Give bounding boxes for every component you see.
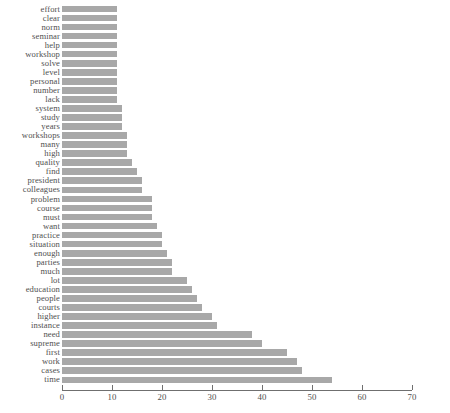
bar-row: supreme <box>0 340 450 349</box>
bar <box>62 322 217 329</box>
bar <box>62 141 127 148</box>
bar <box>62 223 157 230</box>
bar <box>62 268 172 275</box>
bar <box>62 159 132 166</box>
bar <box>62 6 117 13</box>
bar-row: lack <box>0 95 450 104</box>
bar-row: practice <box>0 231 450 240</box>
x-axis-tick-label: 0 <box>60 392 64 402</box>
x-axis-tick-label: 20 <box>158 392 167 402</box>
bar-row: situation <box>0 240 450 249</box>
bar <box>62 69 117 76</box>
bar <box>62 60 117 67</box>
bar <box>62 250 167 257</box>
bar <box>62 177 142 184</box>
x-axis-tick <box>62 385 63 390</box>
bar <box>62 358 297 365</box>
bar-row: effort <box>0 5 450 14</box>
bar <box>62 367 302 374</box>
bar <box>62 241 162 248</box>
x-axis-tick-label: 50 <box>308 392 317 402</box>
x-axis-tick <box>262 385 263 390</box>
bar <box>62 232 162 239</box>
x-axis-tick <box>362 385 363 390</box>
bar-row: personal <box>0 77 450 86</box>
bar <box>62 114 122 121</box>
bar-row: education <box>0 285 450 294</box>
bar-row: need <box>0 331 450 340</box>
bar-row: years <box>0 123 450 132</box>
bar <box>62 168 137 175</box>
x-axis-tick-label: 30 <box>208 392 217 402</box>
x-axis-line <box>62 390 412 391</box>
bar <box>62 377 332 384</box>
bar-row: help <box>0 41 450 50</box>
x-axis-tick-label: 40 <box>258 392 267 402</box>
bar-row: solve <box>0 59 450 68</box>
bar-row: want <box>0 222 450 231</box>
bar-category-label: time <box>44 376 60 385</box>
bar <box>62 33 117 40</box>
bar <box>62 313 212 320</box>
x-axis-tick <box>162 385 163 390</box>
bar-row: must <box>0 213 450 222</box>
bar <box>62 42 117 49</box>
bar-row: course <box>0 204 450 213</box>
bar-row: study <box>0 114 450 123</box>
bar <box>62 304 202 311</box>
x-axis-tick <box>112 385 113 390</box>
bar-row: colleagues <box>0 186 450 195</box>
bar-row: number <box>0 86 450 95</box>
bar-row: clear <box>0 14 450 23</box>
bar-chart: effortclearnormseminarhelpworkshopsolvel… <box>0 0 450 413</box>
bar-row: president <box>0 177 450 186</box>
bar-row: quality <box>0 159 450 168</box>
bar <box>62 51 117 58</box>
bar <box>62 123 122 130</box>
bar-row: norm <box>0 23 450 32</box>
bar-row: instance <box>0 322 450 331</box>
bar <box>62 295 197 302</box>
bar <box>62 150 127 157</box>
x-axis-tick-label: 70 <box>408 392 417 402</box>
bar-row: parties <box>0 258 450 267</box>
bar-row: much <box>0 267 450 276</box>
bar-row: problem <box>0 195 450 204</box>
bar-row: people <box>0 295 450 304</box>
bar-row: courts <box>0 304 450 313</box>
bar <box>62 87 117 94</box>
bar <box>62 187 142 194</box>
bar <box>62 277 187 284</box>
bar-row: workshops <box>0 132 450 141</box>
bar-row: system <box>0 105 450 114</box>
bar <box>62 259 172 266</box>
bar <box>62 96 117 103</box>
bar <box>62 132 127 139</box>
bar-row: time <box>0 376 450 385</box>
bar <box>62 331 252 338</box>
bar-row: lot <box>0 276 450 285</box>
x-axis-tick-label: 60 <box>358 392 367 402</box>
bar <box>62 214 152 221</box>
bar-row: level <box>0 68 450 77</box>
x-axis-tick <box>412 385 413 390</box>
bar <box>62 286 192 293</box>
bar-row: enough <box>0 249 450 258</box>
bar-row: high <box>0 150 450 159</box>
bar-row: find <box>0 168 450 177</box>
bar-row: first <box>0 349 450 358</box>
x-axis-tick-label: 10 <box>108 392 117 402</box>
bar-row: higher <box>0 313 450 322</box>
bar <box>62 78 117 85</box>
bar <box>62 205 152 212</box>
bar-row: work <box>0 358 450 367</box>
x-axis-tick <box>312 385 313 390</box>
bar-row: workshop <box>0 50 450 59</box>
bar <box>62 24 117 31</box>
bars-container: effortclearnormseminarhelpworkshopsolvel… <box>0 0 450 385</box>
bar <box>62 340 262 347</box>
bar <box>62 15 117 22</box>
bar-row: seminar <box>0 32 450 41</box>
bar-row: cases <box>0 367 450 376</box>
bar <box>62 105 122 112</box>
